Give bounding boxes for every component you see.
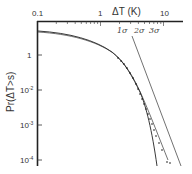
y-tick-label: 10-4	[20, 155, 34, 165]
y-tick-label: 10-3	[20, 120, 34, 130]
y-tick-label: 10-2	[20, 85, 34, 95]
y-tick-label: 1	[27, 51, 32, 60]
x-axis-title: ΔT (K)	[112, 6, 141, 17]
exceedance-probability-chart: 0.1 1 10 ΔT (K) 1 10-2 10-3 10-4 Pr(ΔT>s…	[0, 0, 192, 174]
data-points	[117, 57, 171, 164]
x-tick-label: 1	[98, 9, 103, 18]
x-tick-label: 10	[160, 9, 169, 18]
x-tick-label: 0.1	[32, 9, 44, 18]
sigma-1-label: 1σ	[117, 26, 128, 35]
sigma-2-label: 2σ	[133, 26, 145, 35]
power-law-line	[132, 36, 181, 166]
fit-curve-2	[38, 32, 168, 160]
sigma-3-label: 3σ	[149, 26, 160, 35]
y-axis-title: Pr(ΔT>s)	[5, 72, 16, 112]
fit-curve	[38, 31, 157, 166]
